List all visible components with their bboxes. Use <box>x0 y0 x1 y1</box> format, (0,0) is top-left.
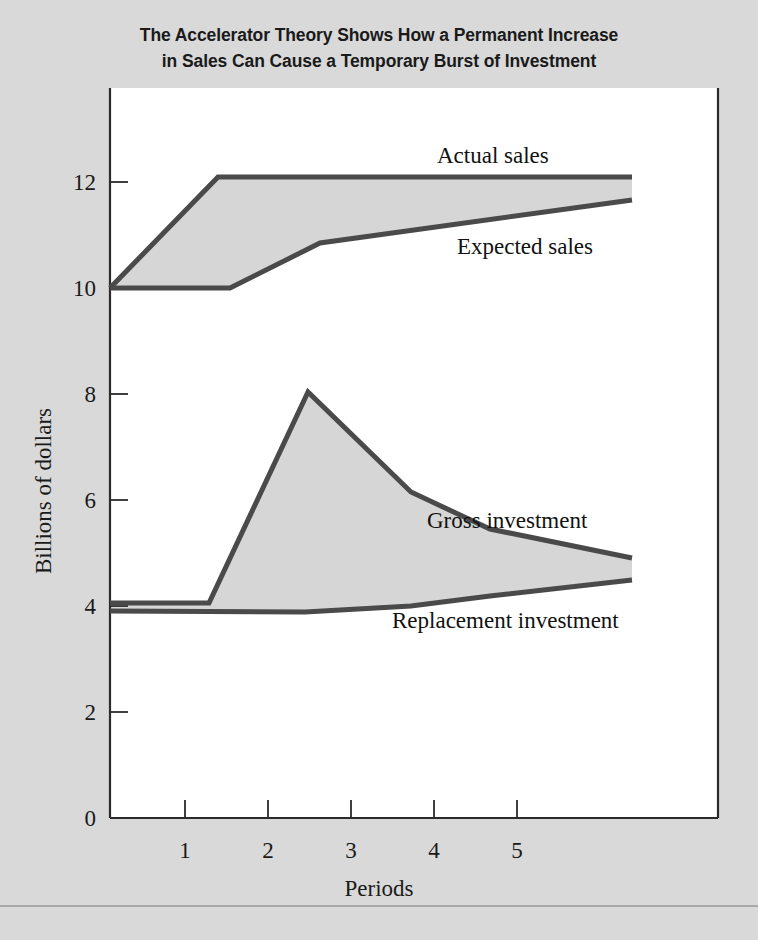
x-axis-tick-labels: 1 2 3 4 5 <box>179 838 523 863</box>
y-tick-label-10: 10 <box>73 276 96 301</box>
y-tick-label-4: 4 <box>85 594 97 619</box>
x-tick-label-2: 2 <box>262 838 274 863</box>
curve-label-gross-investment: Gross investment <box>427 508 588 533</box>
y-axis-tick-labels: 12 10 8 6 4 2 0 <box>73 170 97 831</box>
x-axis-ticks <box>185 800 718 818</box>
y-tick-label-2: 2 <box>85 700 97 725</box>
curve-label-replacement-investment: Replacement investment <box>392 608 619 633</box>
sales-gap-band <box>110 177 632 288</box>
x-tick-label-5: 5 <box>511 838 523 863</box>
y-tick-label-6: 6 <box>85 488 97 513</box>
y-tick-label-0: 0 <box>85 806 97 831</box>
curve-label-actual-sales: Actual sales <box>437 143 549 168</box>
figure-panel: The Accelerator Theory Shows How a Perma… <box>0 0 758 940</box>
y-axis-ticks <box>110 182 128 712</box>
y-tick-label-8: 8 <box>85 382 97 407</box>
y-tick-label-12: 12 <box>73 170 96 195</box>
curve-label-expected-sales: Expected sales <box>457 234 593 259</box>
x-tick-label-1: 1 <box>179 838 191 863</box>
gross-investment-band <box>209 392 632 612</box>
y-axis-title: Billions of dollars <box>31 381 57 601</box>
x-tick-label-4: 4 <box>428 838 440 863</box>
x-axis-title: Periods <box>0 876 758 902</box>
bottom-rule <box>0 905 758 907</box>
accelerator-theory-chart: 12 10 8 6 4 2 0 1 2 3 4 5 <box>0 0 758 940</box>
x-tick-label-3: 3 <box>345 838 357 863</box>
